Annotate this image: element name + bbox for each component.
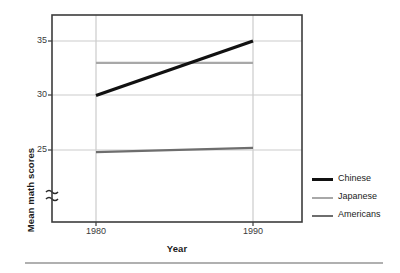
legend-label-americans: Americans <box>338 209 381 219</box>
chart-figure: Mean math scores 35 30 25 1980 1990 Year <box>0 0 400 273</box>
legend-swatch-chinese <box>312 178 333 181</box>
series-line-chinese <box>96 41 253 96</box>
legend-swatch-japanese <box>312 197 333 199</box>
legend-swatch-americans <box>312 215 333 217</box>
legend-label-chinese: Chinese <box>338 173 371 183</box>
legend-label-japanese: Japanese <box>338 191 377 201</box>
plot-area <box>0 0 400 273</box>
footer-divider <box>25 262 383 264</box>
plot-frame <box>52 15 302 222</box>
